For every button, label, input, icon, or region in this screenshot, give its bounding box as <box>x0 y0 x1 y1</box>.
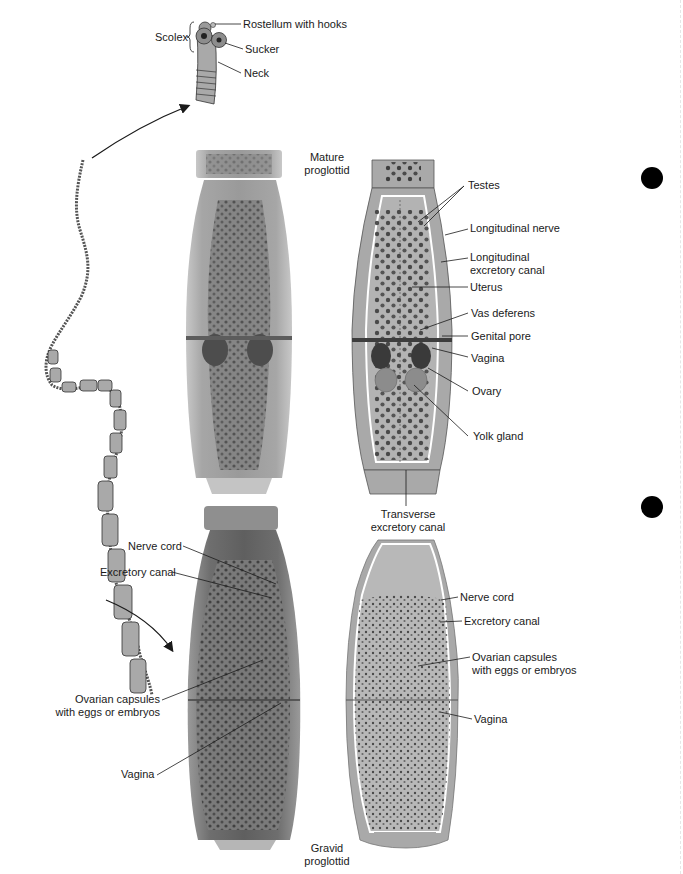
binder-hole-bottom <box>641 496 663 518</box>
label-longitudinal-nerve: Longitudinal nerve <box>470 222 560 235</box>
label-testes: Testes <box>468 179 500 192</box>
label-uterus: Uterus <box>470 281 502 294</box>
title-mature-proglottid: Mature proglottid <box>300 151 354 177</box>
page-edge <box>679 0 681 874</box>
label-transverse-line2: excretory canal <box>360 521 456 534</box>
label-sucker: Sucker <box>245 43 279 56</box>
arrow-to-scolex <box>92 106 188 158</box>
label-excretory-canal-diagram: Excretory canal <box>464 615 540 628</box>
mature-proglottid-photo <box>186 150 292 494</box>
label-transverse-line1: Transverse <box>360 508 456 521</box>
label-vagina-mature: Vagina <box>471 352 504 365</box>
binder-hole-top <box>641 167 663 189</box>
tapeworm-figure: Scolex Rostellum with hooks Sucker Neck … <box>0 0 683 874</box>
label-long-canal-line2: excretory canal <box>470 264 545 277</box>
label-nerve-cord-photo: Nerve cord <box>128 540 182 553</box>
label-vagina-diagram: Vagina <box>474 713 507 726</box>
label-neck: Neck <box>244 67 269 80</box>
gravid-proglottid-photo <box>157 506 300 850</box>
label-vagina-photo: Vagina <box>121 768 154 781</box>
title-gravid-line1: Gravid <box>297 842 357 855</box>
label-scolex: Scolex <box>155 31 188 44</box>
mature-proglottid-diagram <box>352 160 468 506</box>
title-mature-line1: Mature <box>300 151 354 164</box>
label-longitudinal-excretory-canal: Longitudinal excretory canal <box>470 251 545 277</box>
title-mature-line2: proglottid <box>300 164 354 177</box>
label-ovarian-diagram-line2: with eggs or embryos <box>472 664 577 677</box>
label-vas-deferens: Vas deferens <box>471 307 535 320</box>
whole-worm-drawing <box>46 160 152 695</box>
label-yolk-gland: Yolk gland <box>473 430 523 443</box>
gravid-proglottid-diagram <box>346 540 472 848</box>
label-ovarian-diagram-line1: Ovarian capsules <box>472 651 577 664</box>
label-ovarian-capsules-photo: Ovarian capsules with eggs or embryos <box>55 693 160 719</box>
scolex-drawing <box>187 22 243 104</box>
title-gravid-proglottid: Gravid proglottid <box>297 842 357 868</box>
label-excretory-canal-photo: Excretory canal <box>100 566 176 579</box>
label-genital-pore: Genital pore <box>471 330 531 343</box>
label-transverse-excretory-canal: Transverse excretory canal <box>360 508 456 534</box>
label-ovarian-photo-line2: with eggs or embryos <box>55 706 160 719</box>
label-ovarian-photo-line1: Ovarian capsules <box>55 693 160 706</box>
figure-artwork <box>0 0 683 874</box>
label-rostellum-with-hooks: Rostellum with hooks <box>243 18 347 31</box>
title-gravid-line2: proglottid <box>297 855 357 868</box>
label-nerve-cord-diagram: Nerve cord <box>460 591 514 604</box>
label-ovary: Ovary <box>472 385 501 398</box>
label-long-canal-line1: Longitudinal <box>470 251 545 264</box>
label-ovarian-capsules-diagram: Ovarian capsules with eggs or embryos <box>472 651 577 677</box>
